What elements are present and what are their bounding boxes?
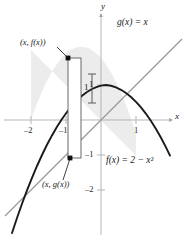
y-tick-label-1: 1 (89, 80, 93, 89)
curve-label-g: g(x) = x (117, 18, 148, 28)
leader-line-bottom (63, 160, 70, 180)
measure-label: 1 (84, 83, 89, 92)
x-tick-label-1: 1 (134, 126, 138, 135)
y-tick-label--1: –1 (85, 150, 94, 159)
figure-area-between-curves: y x –2 –1 1 1 –1 –2 g(x) = x f(x) = 2 − … (0, 0, 185, 243)
x-tick-label--1: –1 (59, 126, 68, 135)
x-axis-label: x (175, 112, 179, 121)
point-label-bottom: (x, g(x)) (42, 180, 69, 189)
representative-rectangle (68, 58, 81, 158)
point-marker-bottom (68, 156, 73, 161)
leader-line-top (57, 47, 67, 57)
y-tick-label--2: –2 (85, 185, 94, 194)
y-axis-label: y (101, 2, 105, 11)
curve-label-f: f(x) = 2 − x² (106, 156, 153, 166)
point-label-top: (x, f(x)) (20, 38, 45, 47)
x-tick-label--2: –2 (24, 126, 33, 135)
